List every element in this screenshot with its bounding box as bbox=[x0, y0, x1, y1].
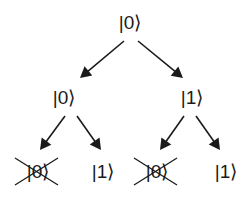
strike-x-icon bbox=[134, 158, 177, 185]
strike-x-icon bbox=[15, 158, 58, 185]
crosses-group bbox=[15, 158, 177, 185]
cross-overlay bbox=[0, 0, 250, 202]
